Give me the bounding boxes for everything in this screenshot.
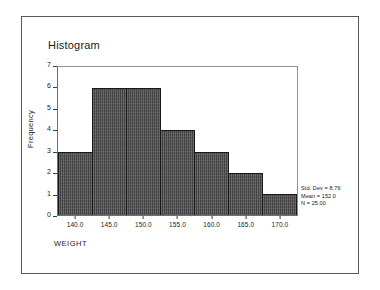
y-tick-label: 4 <box>47 125 51 133</box>
x-tick-mark <box>177 216 178 219</box>
histogram-bar <box>160 130 195 215</box>
y-tick-label: 7 <box>47 61 51 69</box>
x-tick-label: 140.0 <box>67 221 84 228</box>
x-tick: 160.0 <box>203 216 220 228</box>
x-tick-label: 170.0 <box>272 221 289 228</box>
histogram-bar <box>228 173 263 215</box>
bar-series <box>58 67 297 215</box>
x-tick-label: 155.0 <box>169 221 186 228</box>
x-tick: 155.0 <box>169 216 186 228</box>
std-dev-label: Std. Dev = 8.76 <box>301 185 341 193</box>
x-tick: 150.0 <box>135 216 152 228</box>
n-label: N = 25.00 <box>301 200 341 208</box>
y-tick-label: 0 <box>47 211 51 219</box>
x-tick-label: 165.0 <box>237 221 254 228</box>
histogram-bar <box>194 152 229 215</box>
y-tick-label: 5 <box>47 104 51 112</box>
x-tick-mark <box>75 216 76 219</box>
y-axis-title: Frequency <box>26 110 35 148</box>
x-tick-label: 150.0 <box>135 221 152 228</box>
y-axis: 7 6 5 4 3 2 1 0 <box>38 66 57 216</box>
x-tick-mark <box>211 216 212 219</box>
y-tick-label: 3 <box>47 147 51 155</box>
statistics-annotation: Std. Dev = 8.76 Mean = 152.0 N = 25.00 <box>301 185 341 208</box>
chart-title: Histogram <box>48 39 100 51</box>
y-tick-label: 6 <box>47 82 51 90</box>
x-tick-label: 160.0 <box>203 221 220 228</box>
x-tick-mark <box>245 216 246 219</box>
y-tick-label: 2 <box>47 168 51 176</box>
histogram-bar <box>58 152 93 215</box>
x-tick: 140.0 <box>67 216 84 228</box>
histogram-bar <box>92 88 127 215</box>
y-tick-mark <box>53 216 57 217</box>
x-tick: 145.0 <box>101 216 118 228</box>
y-tick-label: 1 <box>47 190 51 198</box>
x-tick-mark <box>143 216 144 219</box>
histogram-bar <box>126 88 161 215</box>
x-tick-mark <box>279 216 280 219</box>
plot-area <box>58 67 297 215</box>
x-tick: 170.0 <box>272 216 289 228</box>
x-tick-mark <box>109 216 110 219</box>
x-tick-label: 145.0 <box>101 221 118 228</box>
x-tick: 165.0 <box>237 216 254 228</box>
histogram-bar <box>262 194 297 215</box>
x-axis-title: WEIGHT <box>54 239 87 248</box>
histogram-screenshot: Histogram 7 6 5 4 3 2 1 <box>0 0 380 290</box>
mean-label: Mean = 152.0 <box>301 193 341 201</box>
x-axis: 140.0 145.0 150.0 155.0 160.0 165.0 170.… <box>58 216 297 232</box>
